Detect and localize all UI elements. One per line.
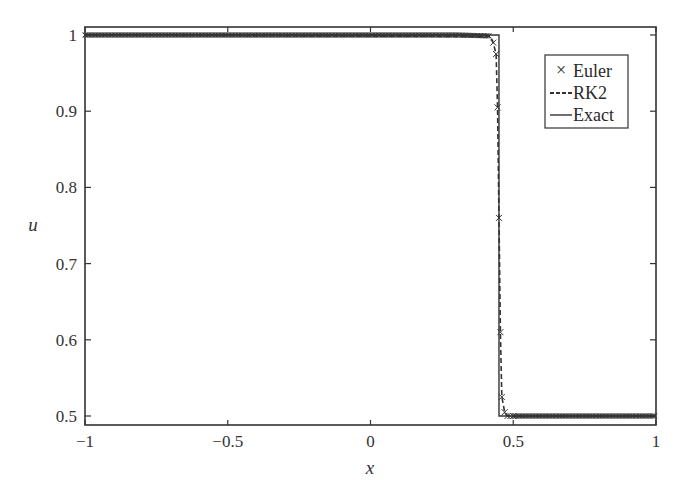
legend-label: Euler: [573, 61, 612, 81]
x-tick-label: 1: [652, 432, 661, 451]
y-tick-label: 1: [69, 26, 78, 45]
y-axis-label: u: [28, 214, 38, 235]
legend-label: Exact: [573, 105, 614, 125]
y-tick-label: 0.9: [56, 102, 77, 121]
chart: −1−0.500.510.50.60.70.80.91 ×EulerRK2Exa…: [0, 0, 691, 502]
x-tick-label: 0.5: [503, 432, 524, 451]
legend-item-euler: ×Euler: [556, 60, 612, 81]
legend: ×EulerRK2Exact: [545, 55, 628, 128]
x-tick-label: 0: [366, 432, 375, 451]
legend-label: RK2: [573, 83, 607, 103]
y-tick-label: 0.8: [56, 178, 77, 197]
y-tick-label: 0.5: [56, 407, 77, 426]
cross-marker-icon: ×: [556, 60, 566, 80]
y-tick-label: 0.6: [56, 331, 77, 350]
x-axis-label: x: [365, 457, 375, 478]
x-tick-label: −0.5: [212, 432, 243, 451]
x-tick-label: −1: [76, 432, 94, 451]
y-tick-label: 0.7: [56, 255, 78, 274]
